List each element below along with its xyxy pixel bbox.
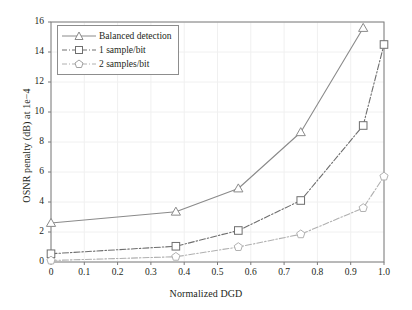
chart-figure: OSNR penalty (dB) at 1e−4 Normalized DGD… (0, 0, 412, 310)
legend-label-2-samples-bit: 2 samples/bit (99, 58, 149, 70)
legend-item-2-samples-bit: 2 samples/bit (62, 57, 172, 71)
data-point-marker (234, 243, 242, 251)
legend-swatch-balanced-detection (62, 30, 96, 42)
data-point-marker (380, 41, 388, 49)
data-point-marker (172, 252, 180, 260)
data-point-marker (359, 122, 367, 130)
legend-label-balanced-detection: Balanced detection (99, 30, 172, 42)
legend-swatch-2-samples-bit (62, 58, 96, 70)
y-tick-label: 6 (18, 166, 44, 176)
data-point-marker (359, 23, 368, 31)
data-point-marker (380, 172, 388, 180)
legend-label-1-sample-bit: 1 sample/bit (99, 44, 146, 56)
y-tick-label: 12 (18, 76, 44, 86)
data-point-marker (171, 207, 180, 215)
y-tick-label: 10 (18, 106, 44, 116)
legend-item-balanced-detection: Balanced detection (62, 29, 172, 43)
data-point-marker (359, 204, 367, 212)
y-tick-label: 0 (18, 256, 44, 266)
y-tick-label: 14 (18, 46, 44, 56)
y-tick-label: 4 (18, 196, 44, 206)
legend-swatch-1-sample-bit (62, 44, 96, 56)
data-point-marker (296, 128, 305, 136)
x-axis-label: Normalized DGD (0, 288, 412, 299)
x-tick-label: 1.0 (364, 267, 404, 277)
y-tick-label: 16 (18, 16, 44, 26)
legend: Balanced detection 1 sample/bit 2 sample… (57, 25, 179, 75)
y-tick-label: 2 (18, 226, 44, 236)
data-point-marker (172, 242, 180, 250)
data-point-marker (297, 197, 305, 205)
y-tick-label: 8 (18, 136, 44, 146)
data-point-marker (297, 230, 305, 238)
legend-item-1-sample-bit: 1 sample/bit (62, 43, 172, 57)
data-point-marker (235, 227, 243, 235)
